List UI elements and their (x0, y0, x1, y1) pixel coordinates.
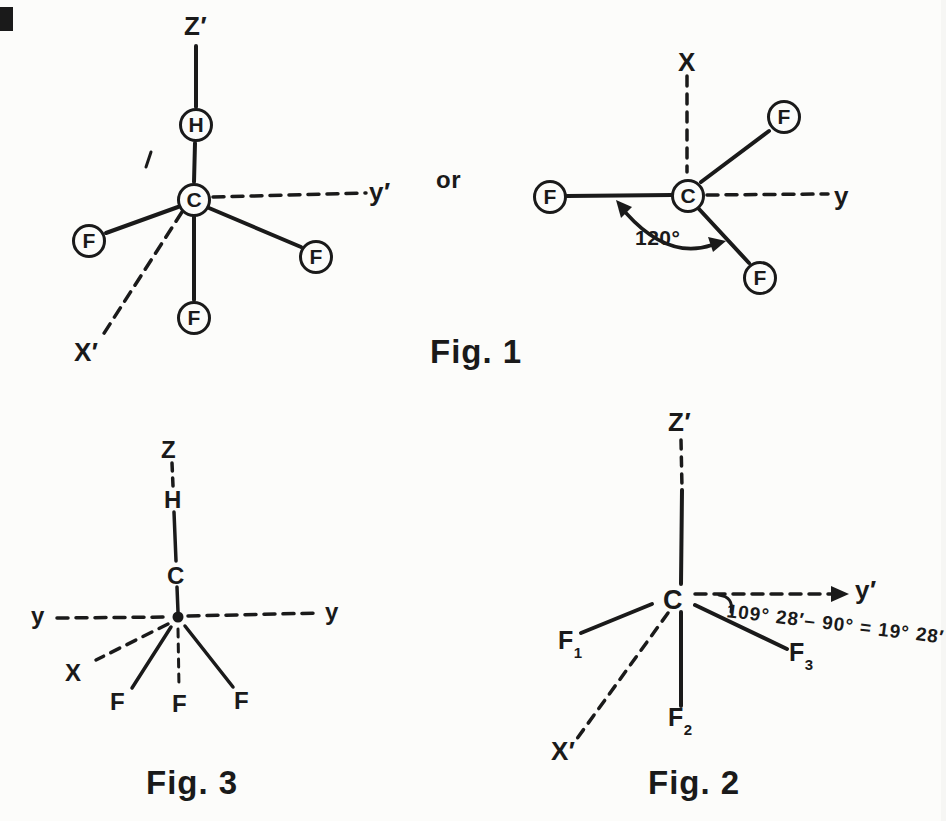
fig1-left-atom-f-left: F (72, 224, 106, 258)
fig1-right-atom-f-upper: F (767, 100, 801, 134)
bond-c-f-upper-right (701, 131, 769, 182)
bond-f-left-c (567, 195, 672, 196)
fig2-angle-annotation: 109° 28′– 90° = 19° 28′ (726, 601, 946, 647)
fig3-atom-c-label: C (167, 564, 185, 588)
fig1-left-axis-x-prime-label: X′ (74, 339, 99, 365)
f2-base: F (668, 703, 684, 731)
fig3-linework (57, 463, 320, 688)
center-node-dot (173, 612, 184, 623)
or-text: or (436, 168, 461, 192)
fig1-left-atom-c: C (177, 183, 211, 217)
fig1-right-atom-f-lower: F (743, 261, 777, 295)
angle-arrowhead-left (616, 200, 632, 218)
fig3-axis-x-label: X (65, 661, 82, 685)
bond-f-left (132, 627, 171, 688)
fig1-right-axis-x-label: X (678, 49, 696, 75)
scan-artifact-mark (0, 7, 13, 31)
fig3-axis-y-right-label: y (325, 600, 339, 624)
bond-c-f-left (106, 207, 178, 233)
axis-z-segment (172, 463, 173, 486)
fig2-atom-c-label: C (663, 587, 683, 614)
fig1-left-axis-z-prime-label: Z′ (184, 13, 207, 39)
fig2-caption: Fig. 2 (648, 766, 740, 799)
fig2-atom-f2-label: F2 (668, 705, 693, 730)
axis-x-line (96, 624, 168, 660)
fig1-left-atom-h: H (179, 108, 213, 142)
f3-subscript: 3 (805, 656, 814, 673)
bond-h-c (174, 512, 176, 561)
fig3-atom-f-left-label: F (110, 690, 125, 714)
axis-x-prime-line (576, 613, 668, 740)
f1-base: F (558, 626, 574, 654)
fig3-caption: Fig. 3 (146, 766, 238, 799)
fig2-atom-f3-label: F3 (789, 640, 814, 665)
fig1-right-axis-y-label: y (834, 183, 849, 209)
angle-arrowhead-right (708, 237, 726, 252)
bond-c-f-right (209, 208, 301, 247)
bond-c-f-lower-right (699, 209, 749, 263)
axis-z-prime-solid (681, 490, 682, 584)
axis-y-line (707, 194, 828, 195)
fig1-right-atom-f-left: F (533, 180, 567, 214)
fig1-right-atom-c: C (671, 179, 705, 213)
axis-z-prime-dashed (681, 440, 682, 488)
axis-y-prime-line (213, 193, 366, 197)
f3-base: F (789, 638, 805, 666)
fig1-left-linework (101, 46, 366, 338)
fig1-caption: Fig. 1 (430, 335, 522, 368)
fig2-axis-x-prime-label: X′ (551, 738, 576, 764)
bond-c-f1 (581, 604, 652, 633)
fig3-axis-y-left-label: y (31, 604, 45, 628)
axis-x-prime-line (101, 212, 182, 338)
axis-y-right-line (188, 613, 320, 616)
fig2-axis-z-prime-label: Z′ (668, 409, 691, 435)
fig3-axis-z-label: Z (161, 438, 176, 462)
bond-f-middle-dashed (178, 629, 179, 687)
fig2-atom-f1-label: F1 (558, 628, 583, 653)
fig2-axis-y-prime-label: y′ (855, 577, 877, 603)
fig3-atom-h-label: H (164, 488, 182, 512)
bond-c-center (177, 587, 178, 612)
stray-scan-mark (146, 152, 151, 167)
f1-subscript: 1 (574, 644, 583, 661)
axis-y-left-line (57, 617, 169, 618)
fig3-atom-f-right-label: F (234, 689, 249, 713)
axis-y-prime-arrowhead (831, 586, 849, 602)
fig1-left-atom-f-right: F (299, 240, 333, 274)
bond-h-c (194, 143, 195, 182)
f2-subscript: 2 (684, 721, 693, 738)
fig1-right-angle-120-label: 120° (635, 227, 680, 248)
fig1-left-axis-y-prime-label: y′ (369, 179, 391, 205)
fig3-atom-f-middle-label: F (172, 692, 187, 716)
fig2-linework (576, 440, 849, 740)
fig1-left-atom-f-bottom: F (177, 301, 211, 335)
bond-f-right (185, 626, 233, 687)
